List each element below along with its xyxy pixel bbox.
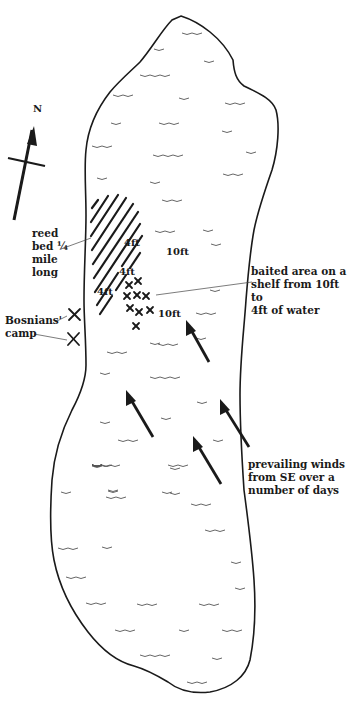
north-arrow-icon <box>8 126 45 220</box>
camp-markers <box>68 309 80 345</box>
compass-north-label: N <box>33 102 42 115</box>
depth-label: 4ft <box>97 286 113 298</box>
water-waves <box>92 33 256 495</box>
bait-markers <box>124 278 153 329</box>
map-drawing <box>0 0 347 710</box>
prevailing-winds-label: prevailing winds from SE over a number o… <box>248 458 345 497</box>
wind-arrow-icon <box>126 390 153 437</box>
depth-label: 4ft <box>119 266 135 278</box>
reed-bed-label: reed bed ¼ mile long <box>32 227 68 279</box>
depth-label: 10ft <box>158 308 181 320</box>
wind-arrow-icon <box>193 436 221 484</box>
baited-area-label: baited area on a shelf from 10ft to 4ft … <box>251 265 347 317</box>
lake-map: N reed bed ¼ mile long Bosnians' camp ba… <box>0 0 347 710</box>
camp-label: Bosnians' camp <box>5 314 62 340</box>
wind-arrow-icon <box>220 399 249 447</box>
lake-outline <box>51 16 278 693</box>
depth-label: 10ft <box>166 246 189 258</box>
depth-label: 4ft <box>124 237 140 249</box>
leader-lines <box>61 238 252 295</box>
wind-arrow-icon <box>186 320 209 362</box>
wind-arrows <box>126 320 249 484</box>
water-waves-south <box>58 465 245 684</box>
